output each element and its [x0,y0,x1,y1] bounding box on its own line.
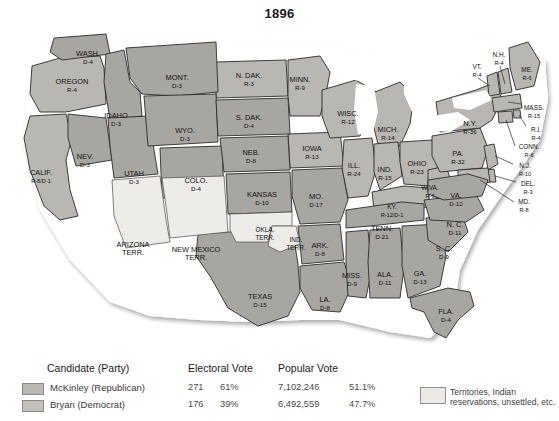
state-name: DEL. [521,180,535,187]
legend-swatch-democrat [22,400,44,412]
legend-popular-pct-republican: 51.1% [349,382,375,392]
state-arkansas [298,224,344,264]
legend-swatch-territory [420,387,446,404]
state-vote: R-8 [519,207,528,213]
legend-header-electoral: Electoral Vote [188,362,253,374]
state-nebraska [220,136,290,172]
legend-electoral-pct-democrat: 39% [220,399,239,409]
us-electoral-map: WASH.D-4 OREGONR-4 CALIF.R-8/D-1 IDAHOD-… [0,20,559,350]
legend-electoral-votes-democrat: 176 [188,399,204,409]
state-alabama [368,228,404,298]
electoral-map-figure: 1896 [0,0,559,421]
state-vote: R-10 [519,171,531,177]
legend-popular-pct-democrat: 47.7% [349,399,375,409]
legend-header-popular: Popular Vote [278,362,338,374]
state-label: DEL.R-3 [521,180,535,195]
state-pennsylvania [432,128,488,172]
legend-popular-votes-democrat: 6,492,559 [278,399,319,409]
legend-candidate-republican: McKinley (Republican) [50,382,145,393]
map-canvas: WASH.D-4 OREGONR-4 CALIF.R-8/D-1 IDAHOD-… [0,20,559,350]
state-montana [126,42,218,96]
state-kansas [226,172,292,214]
territory-newmexico [162,176,228,238]
page-title: 1896 [0,6,559,21]
legend-electoral-votes-republican: 271 [188,382,204,392]
legend-header-candidate: Candidate (Party) [47,362,129,374]
legend-swatch-republican [22,383,44,395]
legend-electoral-pct-republican: 61% [220,382,239,392]
state-connecticut [498,111,513,123]
state-label: MD.R-8 [518,198,530,213]
state-sdakota [216,98,290,136]
state-vote: R-3 [523,189,532,195]
legend-popular-votes-republican: 7,102,246 [278,382,319,392]
legend-territory-note-line2: reservations, unsettled, etc. [450,397,555,407]
state-nevada [68,114,112,166]
legend-candidate-democrat: Bryan (Democrat) [50,399,125,410]
state-wyoming [144,94,218,146]
state-ndakota [216,60,288,98]
legend-territory-note-line1: Territories, Indian [450,387,516,397]
state-oregon [30,56,106,112]
state-missouri [292,168,348,224]
state-name: MD. [518,198,530,205]
